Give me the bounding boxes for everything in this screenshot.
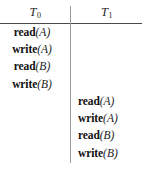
table-row: read(B) <box>72 127 142 144</box>
column-body-t1: read(A) write(A) read(B) write(B) <box>72 93 142 162</box>
table-row: write(A) <box>72 110 142 127</box>
column-header-t0: T0 <box>0 3 70 22</box>
table-row: write(B) <box>0 76 70 93</box>
column-header-t0-base: T <box>30 5 37 19</box>
operation-argument: (A) <box>36 26 51 38</box>
operation-argument: (B) <box>36 60 51 72</box>
operation-name: write <box>12 78 37 90</box>
table-row: write(B) <box>72 145 142 162</box>
operation-argument: (A) <box>100 95 115 107</box>
operation-argument: (B) <box>100 129 115 141</box>
table-row: write(A) <box>0 41 70 58</box>
operation-name: read <box>78 95 100 107</box>
column-header-t0-subscript: 0 <box>37 11 41 20</box>
column-header-t1-subscript: 1 <box>108 11 112 20</box>
operation-argument: (A) <box>37 43 52 55</box>
table-header-row: T0 T1 <box>0 3 142 22</box>
column-header-t1: T1 <box>71 3 142 22</box>
column-vertical-divider <box>70 6 71 163</box>
operation-name: read <box>14 60 36 72</box>
operation-argument: (B) <box>103 147 118 159</box>
column-header-t1-base: T <box>101 5 108 19</box>
table-row: read(B) <box>0 58 70 75</box>
operation-argument: (B) <box>37 78 52 90</box>
table-row: read(A) <box>0 24 70 41</box>
operation-argument: (A) <box>103 112 118 124</box>
transaction-schedule-figure: T0 T1 read(A) write(A) read(B) write(B) … <box>0 0 142 169</box>
table-row: read(A) <box>72 93 142 110</box>
column-body-t0: read(A) write(A) read(B) write(B) <box>0 24 70 93</box>
operation-name: write <box>78 112 103 124</box>
operation-name: read <box>78 129 100 141</box>
operation-name: write <box>78 147 103 159</box>
operation-name: write <box>12 43 37 55</box>
operation-name: read <box>14 26 36 38</box>
